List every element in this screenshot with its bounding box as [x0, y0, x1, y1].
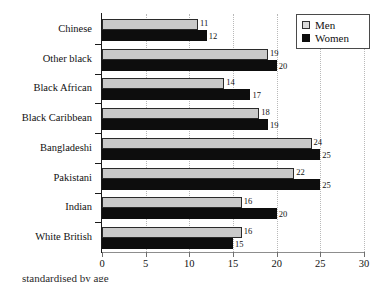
x-axis-tick: [277, 252, 278, 257]
y-axis-tick: [95, 163, 101, 164]
category-label: Chinese: [58, 23, 92, 35]
x-axis-tick-label: 10: [174, 258, 204, 270]
bar-men: [102, 49, 268, 60]
legend-label-men: Men: [315, 19, 335, 31]
bar-men: [102, 168, 294, 179]
x-axis-tick-label: 30: [349, 258, 379, 270]
gridline: [364, 14, 365, 252]
bar-value-label: 12: [209, 31, 218, 41]
x-axis-tick: [364, 252, 365, 257]
x-axis-tick-label: 25: [305, 258, 335, 270]
bar-value-label: 24: [314, 137, 323, 147]
bar-women: [102, 179, 320, 190]
category-label: White British: [35, 231, 92, 243]
bar-value-label: 15: [235, 239, 244, 249]
y-axis-tick: [95, 222, 101, 223]
bar-women: [102, 30, 207, 41]
figure-caption: standardised by age: [22, 272, 109, 282]
x-axis-tick: [189, 252, 190, 257]
x-axis-tick-label: 0: [87, 258, 117, 270]
legend: Men Women: [296, 14, 370, 49]
category-label: Bangladeshi: [40, 142, 92, 154]
x-axis-tick-label: 15: [218, 258, 248, 270]
bar-value-label: 20: [279, 209, 288, 219]
bar-value-label: 19: [270, 120, 279, 130]
x-axis-tick-label: 20: [262, 258, 292, 270]
y-axis-tick: [95, 193, 101, 194]
bar-women: [102, 119, 268, 130]
bar-value-label: 16: [244, 196, 253, 206]
bar-women: [102, 60, 277, 71]
bar-value-label: 20: [279, 61, 288, 71]
bar-women: [102, 238, 233, 249]
category-label: Other black: [43, 53, 92, 65]
bar-men: [102, 138, 312, 149]
bar-women: [102, 208, 277, 219]
bar-value-label: 19: [270, 48, 279, 58]
x-axis-tick: [320, 252, 321, 257]
bar-chart: 11121920141718192425222516201615 0510152…: [0, 0, 381, 282]
bar-value-label: 14: [226, 77, 235, 87]
y-axis-tick: [95, 74, 101, 75]
bar-men: [102, 227, 242, 238]
category-label: Black Caribbean: [22, 112, 92, 124]
bar-men: [102, 78, 224, 89]
y-axis-tick: [95, 103, 101, 104]
bar-value-label: 16: [244, 226, 253, 236]
bar-women: [102, 89, 250, 100]
legend-swatch-men-icon: [302, 21, 310, 29]
bar-value-label: 22: [296, 167, 305, 177]
bar-women: [102, 149, 320, 160]
bars-layer: 11121920141718192425222516201615: [102, 14, 364, 252]
x-axis-tick: [146, 252, 147, 257]
category-label: Indian: [65, 201, 92, 213]
x-axis-tick: [102, 252, 103, 257]
y-axis-tick: [95, 44, 101, 45]
y-axis-tick: [95, 133, 101, 134]
legend-item-women[interactable]: Women: [302, 31, 365, 44]
category-label: Pakistani: [54, 172, 93, 184]
category-label: Black African: [33, 82, 92, 94]
legend-swatch-women-icon: [302, 34, 310, 42]
bar-value-label: 18: [261, 107, 270, 117]
bar-men: [102, 19, 198, 30]
x-axis-tick-label: 5: [131, 258, 161, 270]
legend-item-men[interactable]: Men: [302, 18, 365, 31]
x-axis-tick: [233, 252, 234, 257]
bar-men: [102, 108, 259, 119]
y-axis-line: [101, 13, 102, 253]
bar-value-label: 25: [322, 150, 331, 160]
bar-value-label: 11: [200, 18, 208, 28]
bar-value-label: 25: [322, 180, 331, 190]
legend-label-women: Women: [315, 32, 349, 44]
bar-value-label: 17: [252, 90, 261, 100]
bar-men: [102, 197, 242, 208]
